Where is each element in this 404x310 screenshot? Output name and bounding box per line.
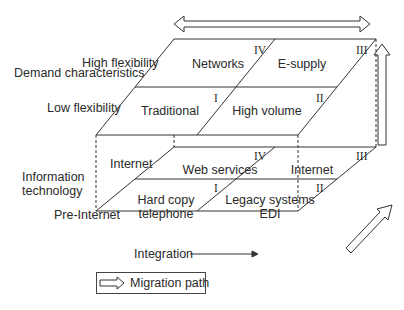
- quadrant-i-bottom: I: [214, 182, 218, 194]
- cell-web-services: Web services: [170, 163, 270, 177]
- cell-networks: Networks: [178, 57, 258, 71]
- cube-diagram: [0, 0, 404, 310]
- quadrant-iv-bottom: IV: [254, 150, 266, 162]
- quadrant-i-top: I: [214, 92, 218, 104]
- label-demand-characteristics: Demand characteristics: [14, 66, 86, 80]
- quadrant-iv-top: IV: [254, 44, 266, 56]
- cell-traditional: Traditional: [130, 104, 210, 118]
- label-information-technology: Information technology: [22, 170, 82, 198]
- cell-internet: Internet: [272, 163, 352, 177]
- label-low-flexibility: Low flexibility: [47, 101, 121, 115]
- cell-e-supply: E-supply: [262, 57, 342, 71]
- diagonal-arrow-icon: [346, 205, 392, 253]
- quadrant-iii-bottom: III: [356, 150, 368, 162]
- quadrant-iii-top: III: [356, 44, 368, 56]
- label-pre-internet: Pre-Internet: [54, 208, 120, 222]
- label-integration: Integration: [134, 247, 193, 261]
- row-label-internet: Internet: [110, 157, 152, 171]
- legend-label: Migration path: [130, 276, 209, 290]
- cell-hard-copy-telephone: Hard copy telephone: [126, 193, 206, 221]
- quadrant-ii-bottom: II: [316, 182, 324, 194]
- double-arrow-icon: [174, 16, 370, 32]
- cell-high-volume: High volume: [222, 104, 312, 118]
- quadrant-ii-top: II: [316, 92, 324, 104]
- cell-legacy-systems-edi: Legacy systems EDI: [220, 193, 320, 221]
